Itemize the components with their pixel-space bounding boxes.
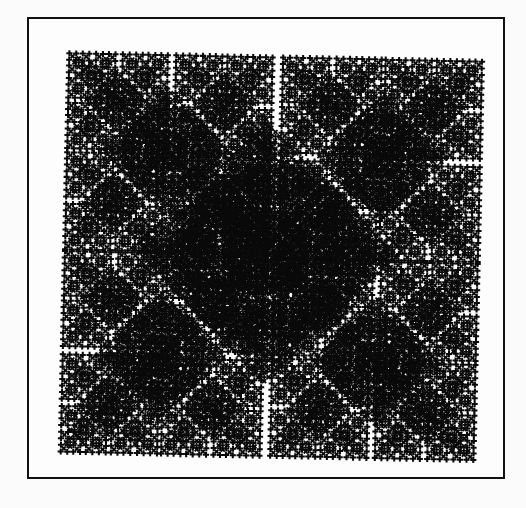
- figure-frame: [27, 17, 505, 479]
- fractal-image: [29, 19, 503, 477]
